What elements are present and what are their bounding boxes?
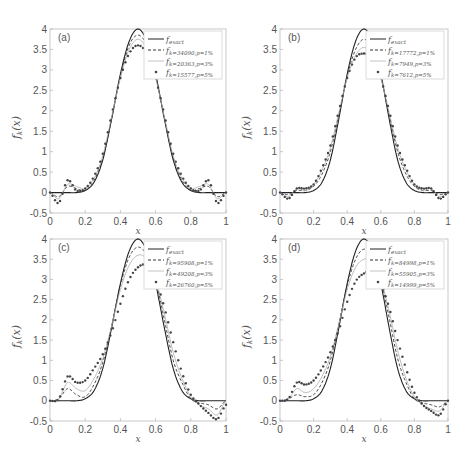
y-tick-label: 2.5 (33, 294, 47, 305)
y-tick-label: 4 (41, 234, 47, 245)
legend: fexactfk=17772,p=1%fk=7949,p=3%fk=7612,p… (366, 31, 444, 79)
y-tick-label: 2.5 (33, 85, 47, 96)
y-tick-label: 0 (41, 395, 47, 406)
y-tick-label: 3 (271, 274, 277, 285)
y-tick-label: 3.5 (263, 254, 277, 265)
x-tick-label: 0.2 (307, 424, 321, 435)
chart-panel-b: -0.500.511.522.533.5400.20.40.60.81xfk(x… (240, 24, 451, 237)
y-tick-label: 2 (271, 105, 277, 116)
series-dots (279, 270, 449, 417)
y-tick-label: 1 (41, 355, 47, 366)
y-tick-label: 2 (271, 314, 277, 325)
figure-canvas: -0.500.511.522.533.5400.20.40.60.81xfk(x… (0, 0, 471, 451)
panel-label: (a) (58, 32, 70, 43)
y-tick-label: 3.5 (263, 44, 277, 55)
x-tick-label: 0.6 (149, 216, 163, 227)
panel-label: (c) (58, 242, 70, 253)
legend: fexactfk=84998,p=1%fk=55905,p=3%fk=14999… (366, 241, 444, 289)
y-axis-label: fk(x) (10, 116, 24, 140)
y-tick-label: 1 (41, 146, 47, 157)
y-axis-label: fk(x) (10, 325, 24, 349)
y-tick-label: 1 (271, 355, 277, 366)
x-tick-label: 0.2 (78, 216, 92, 227)
x-tick-label: 0.8 (184, 216, 198, 227)
legend: fexactfk=95908,p=1%fk=49208,p=3%fk=26760… (144, 241, 222, 289)
chart-panel-d: -0.500.511.522.533.5400.20.40.60.81xfk(x… (240, 234, 451, 445)
y-tick-label: 0 (271, 395, 277, 406)
x-tick-label: 0 (47, 216, 53, 227)
x-tick-label: 0 (277, 216, 283, 227)
x-tick-label: 1 (445, 424, 451, 435)
y-tick-label: 2 (41, 314, 47, 325)
x-tick-label: 0.6 (374, 216, 388, 227)
legend: fexactfk=34090,p=1%fk=20363,p=3%fk=15577… (144, 31, 222, 79)
x-tick-label: 0.2 (78, 424, 92, 435)
y-tick-label: 0.5 (263, 375, 277, 386)
y-tick-label: 0.5 (33, 375, 47, 386)
y-tick-label: -0.5 (260, 416, 278, 427)
x-axis-label: x (361, 226, 366, 236)
y-tick-label: 1.5 (33, 126, 47, 137)
y-tick-label: 4 (271, 24, 277, 35)
y-tick-label: 1.5 (263, 126, 277, 137)
y-tick-label: -0.5 (30, 208, 48, 219)
y-tick-label: 1.5 (263, 335, 277, 346)
y-tick-label: 0.5 (263, 167, 277, 178)
y-tick-label: -0.5 (30, 416, 48, 427)
chart-panel-c: -0.500.511.522.533.5400.20.40.60.81xfk(x… (10, 234, 229, 445)
x-tick-label: 0.6 (374, 424, 388, 435)
x-axis-label: x (135, 226, 140, 236)
y-tick-label: 2.5 (263, 85, 277, 96)
x-tick-label: 0.8 (184, 424, 198, 435)
y-tick-label: 0.5 (33, 167, 47, 178)
x-tick-label: 1 (223, 424, 229, 435)
panel-label: (b) (288, 32, 300, 43)
y-tick-label: 3.5 (33, 254, 47, 265)
y-tick-label: 3 (41, 274, 47, 285)
y-tick-label: 2 (41, 105, 47, 116)
x-tick-label: 1 (223, 216, 229, 227)
y-tick-label: 3.5 (33, 44, 47, 55)
y-tick-label: 1 (271, 146, 277, 157)
y-tick-label: 0 (271, 187, 277, 198)
y-tick-label: 1.5 (33, 335, 47, 346)
y-tick-label: 4 (41, 24, 47, 35)
y-tick-label: 2.5 (263, 294, 277, 305)
x-axis-label: x (135, 434, 140, 444)
x-tick-label: 0.8 (407, 424, 421, 435)
y-tick-label: 3 (41, 64, 47, 75)
y-tick-label: 4 (271, 234, 277, 245)
x-tick-label: 0 (277, 424, 283, 435)
panel-label: (d) (288, 242, 300, 253)
x-tick-label: 0 (47, 424, 53, 435)
chart-panel-a: -0.500.511.522.533.5400.20.40.60.81xfk(x… (10, 24, 229, 237)
x-tick-label: 1 (445, 216, 451, 227)
y-tick-label: 0 (41, 187, 47, 198)
y-tick-label: -0.5 (260, 208, 278, 219)
y-axis-label: fk(x) (240, 325, 254, 349)
x-tick-label: 0.8 (407, 216, 421, 227)
x-tick-label: 0.4 (113, 216, 127, 227)
y-tick-label: 3 (271, 64, 277, 75)
x-tick-label: 0.4 (113, 424, 127, 435)
x-tick-label: 0.6 (149, 424, 163, 435)
y-axis-label: fk(x) (240, 116, 254, 140)
figure: -0.500.511.522.533.5400.20.40.60.81xfk(x… (0, 0, 471, 451)
x-tick-label: 0.2 (307, 216, 321, 227)
x-axis-label: x (361, 434, 366, 444)
x-tick-label: 0.4 (340, 216, 354, 227)
x-tick-label: 0.4 (340, 424, 354, 435)
